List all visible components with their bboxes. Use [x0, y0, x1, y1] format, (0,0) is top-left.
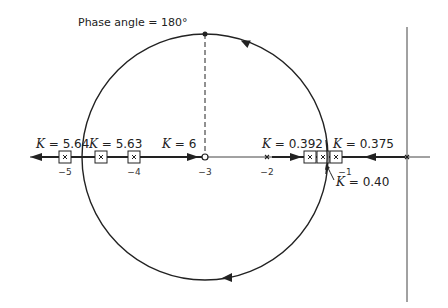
boxed-root-k0375: [330, 151, 342, 163]
gain-label-k564: K = 5.64: [36, 138, 89, 150]
phase-angle-label: Phase angle = 180°: [78, 17, 188, 28]
tick-minus3: −3: [198, 168, 211, 177]
boxed-root-k0392: [304, 151, 316, 163]
boxed-root-k6: [128, 151, 140, 163]
arrow-right-to-boxes-icon: [290, 153, 302, 161]
arrow-right-to-minus3-icon: [187, 153, 199, 161]
boxed-root-k564: [59, 151, 71, 163]
gain-label-k0375: K = 0.375: [333, 138, 394, 150]
arrow-circle-top-icon: [241, 40, 252, 49]
gain-label-k0392: K = 0.392: [262, 138, 323, 150]
root-locus-diagram: [0, 0, 448, 308]
tick-minus1: −1: [338, 168, 351, 177]
arrow-left-icon: [30, 153, 42, 161]
gain-label-k563: K = 5.63: [89, 138, 142, 150]
tick-minus5: −5: [58, 168, 71, 177]
boxed-root-k563: [95, 151, 107, 163]
tick-minus4: −4: [127, 168, 140, 177]
top-point-marker: [203, 32, 208, 37]
arrow-left-from-origin-icon: [364, 153, 376, 161]
gain-label-k040: K = 0.40: [336, 176, 389, 188]
arrow-circle-bottom-icon: [222, 273, 232, 282]
gain-label-k6: K = 6: [162, 138, 196, 150]
tick-minus2: −2: [260, 168, 273, 177]
zero-marker-minus3: [202, 154, 208, 160]
